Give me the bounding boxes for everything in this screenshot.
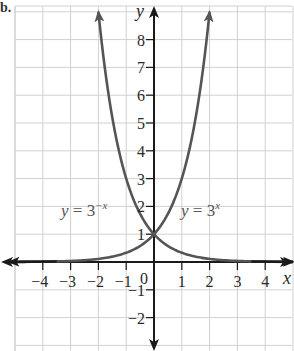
curves [9, 12, 293, 262]
x-tick-label: −2 [87, 273, 104, 290]
x-tick-label: 1 [178, 273, 186, 290]
y-tick-label: 5 [137, 115, 145, 132]
origin-label: 0 [140, 270, 148, 287]
label-3-pow-x: y = 3x [179, 199, 220, 220]
y-tick-label: 8 [137, 32, 145, 49]
x-axis-label: x [282, 268, 291, 288]
x-tick-label: −4 [31, 273, 48, 290]
x-tick-label: 4 [261, 273, 269, 290]
y-tick-label: 7 [137, 59, 145, 76]
x-tick-label: 2 [206, 273, 214, 290]
y-tick-label: 3 [137, 171, 145, 188]
label-3-pow-neg-x: y = 3−x [59, 199, 108, 220]
curve-3-pow-neg-x [98, 12, 293, 262]
y-axis-label: y [134, 1, 144, 21]
curve-3-pow-x [9, 12, 209, 262]
part-label: b. [0, 0, 11, 15]
y-tick-label: 6 [137, 87, 145, 104]
y-tick-label: 1 [137, 226, 145, 243]
x-tick-label: −3 [59, 273, 76, 290]
y-tick-label: 4 [137, 143, 145, 160]
exponential-graph: b. −4−3−2−1123412345678−1−20yx y = 3−xy … [0, 0, 294, 351]
x-tick-label: 3 [233, 273, 241, 290]
y-tick-label: 2 [137, 198, 145, 215]
y-tick-label: −2 [128, 310, 145, 327]
